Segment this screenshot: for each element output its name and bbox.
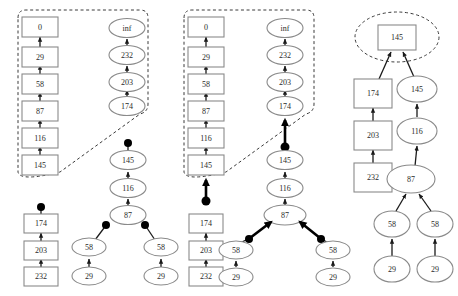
node-label: 29 (388, 265, 396, 274)
node-left-box-116[interactable]: 116 (22, 128, 58, 148)
node-right-box-232[interactable]: 232 (354, 163, 392, 192)
node-left-pair-a-58[interactable]: 58 (72, 238, 106, 256)
node-label: 29 (85, 272, 93, 281)
node-left-box-0[interactable]: 0 (22, 17, 58, 37)
node-label: inf (281, 24, 290, 33)
root-dot-icon (124, 139, 132, 147)
node-label: 116 (279, 184, 291, 193)
node-label: 58 (202, 80, 210, 89)
node-label: 145 (200, 161, 212, 170)
node-label: 87 (407, 175, 415, 184)
node-left-lower-203[interactable]: 203 (24, 241, 58, 260)
root-dot-icon (102, 221, 110, 229)
node-mid-ellipse-232[interactable]: 232 (267, 46, 303, 65)
node-label: 203 (367, 131, 379, 140)
node-left-mid-87[interactable]: 87 (110, 206, 146, 225)
node-label: 145 (411, 85, 423, 94)
node-label: 58 (157, 243, 165, 252)
node-label: 232 (35, 272, 47, 281)
node-left-mid-116[interactable]: 116 (110, 179, 146, 198)
node-mid-ellipse-174[interactable]: 174 (267, 97, 303, 116)
node-label: 29 (202, 53, 210, 62)
node-mid-merge-left-29[interactable]: 29 (219, 268, 253, 286)
node-label: 145 (391, 33, 403, 42)
node-label: 203 (35, 246, 47, 255)
node-right-merge-right-29[interactable]: 29 (417, 256, 453, 282)
node-mid-box-145[interactable]: 145 (188, 155, 224, 175)
node-label: 174 (121, 102, 133, 111)
node-left-pair-b-58[interactable]: 58 (144, 238, 178, 256)
node-mid-box-29[interactable]: 29 (188, 47, 224, 67)
node-label: 58 (431, 220, 439, 229)
node-right-box-174[interactable]: 174 (354, 79, 392, 108)
node-right-box-203[interactable]: 203 (354, 121, 392, 150)
node-label: 232 (200, 272, 212, 281)
node-mid-lower-174[interactable]: 174 (189, 214, 223, 233)
node-label: 0 (204, 23, 208, 32)
node-label: 174 (200, 219, 212, 228)
node-mid-box-87[interactable]: 87 (188, 101, 224, 121)
right-panel: 145 174 203 232 (354, 25, 453, 282)
node-left-box-29[interactable]: 29 (22, 47, 58, 67)
node-right-merge-left-29[interactable]: 29 (374, 256, 410, 282)
middle-panel: 145 116 87 58 29 0 (188, 17, 350, 286)
node-label: 116 (200, 134, 212, 143)
node-left-pair-b-29[interactable]: 29 (144, 267, 178, 285)
node-left-box-145[interactable]: 145 (22, 155, 58, 175)
node-right-ellipse-145[interactable]: 145 (397, 76, 437, 102)
node-left-ellipse-203[interactable]: 203 (109, 73, 145, 92)
node-right-merge-left-58[interactable]: 58 (374, 211, 410, 237)
node-right-root-145[interactable]: 145 (378, 25, 416, 50)
node-right-ellipse-87[interactable]: 87 (387, 165, 435, 193)
node-label: 116 (122, 184, 134, 193)
node-left-ellipse-174[interactable]: 174 (109, 97, 145, 116)
node-mid-stack-145[interactable]: 145 (267, 151, 303, 170)
node-label: 29 (36, 53, 44, 62)
node-label: 232 (367, 173, 379, 182)
node-left-lower-232[interactable]: 232 (24, 267, 58, 286)
node-mid-ellipse-203[interactable]: 203 (267, 73, 303, 92)
node-left-pair-a-29[interactable]: 29 (72, 267, 106, 285)
node-mid-lower-232[interactable]: 232 (189, 267, 223, 286)
node-right-merge-right-58[interactable]: 58 (417, 211, 453, 237)
node-label: 145 (279, 156, 291, 165)
node-label: 0 (38, 23, 42, 32)
node-mid-stack-116[interactable]: 116 (267, 179, 303, 198)
root-dot-icon (37, 203, 45, 211)
node-left-ellipse-232[interactable]: 232 (109, 46, 145, 65)
node-mid-lower-203[interactable]: 203 (189, 241, 223, 260)
node-left-box-58[interactable]: 58 (22, 74, 58, 94)
node-label: 87 (124, 211, 132, 220)
node-label: 174 (279, 102, 291, 111)
node-left-box-87[interactable]: 87 (22, 101, 58, 121)
node-label: inf (123, 24, 132, 33)
root-dot-icon (141, 221, 149, 229)
node-mid-box-58[interactable]: 58 (188, 74, 224, 94)
node-label: 29 (431, 265, 439, 274)
node-mid-merge-left-58[interactable]: 58 (219, 241, 253, 259)
node-right-ellipse-116[interactable]: 116 (397, 118, 437, 144)
node-mid-ellipse-inf[interactable]: inf (267, 19, 303, 38)
node-mid-merge-right-29[interactable]: 29 (316, 268, 350, 286)
node-left-mid-145[interactable]: 145 (110, 151, 146, 170)
node-label: 29 (232, 273, 240, 282)
node-label: 203 (121, 78, 133, 87)
node-left-lower-174[interactable]: 174 (24, 214, 58, 233)
node-label: 174 (367, 89, 379, 98)
node-label: 58 (85, 243, 93, 252)
node-label: 145 (122, 156, 134, 165)
node-label: 58 (232, 246, 240, 255)
merge-dot-icon (245, 235, 253, 243)
node-mid-box-0[interactable]: 0 (188, 17, 224, 37)
node-label: 87 (36, 107, 44, 116)
node-mid-merge-right-58[interactable]: 58 (316, 241, 350, 259)
node-label: 116 (411, 127, 423, 136)
node-label: 145 (34, 161, 46, 170)
node-label: 87 (202, 107, 210, 116)
node-left-ellipse-inf[interactable]: inf (109, 19, 145, 38)
node-label: 58 (36, 80, 44, 89)
node-label: 203 (200, 246, 212, 255)
node-mid-box-116[interactable]: 116 (188, 128, 224, 148)
mid-merge-edges (236, 222, 333, 267)
left-panel: 145 116 87 58 29 0 (22, 17, 178, 286)
